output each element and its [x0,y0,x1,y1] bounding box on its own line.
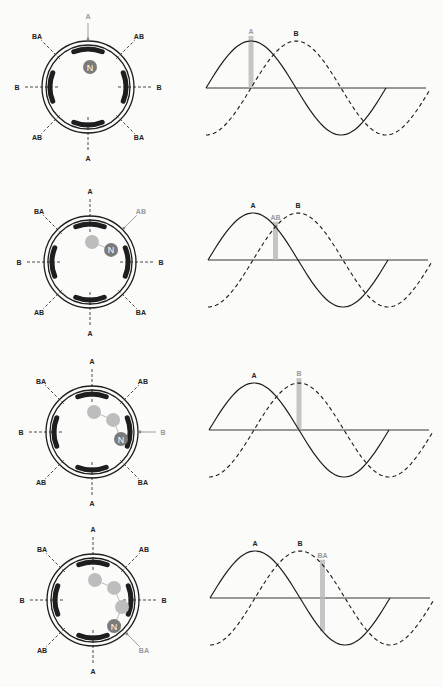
stepper-motor-diagram: AABBBAAABBBANBAAABBBAAABBBANABABAABBBAAA… [0,0,443,687]
stator-label-top: A [90,526,95,533]
rotor-north-label: N [111,622,118,632]
stator-label-bottom-right: BA [136,309,146,316]
stator-label-bottom: A [90,668,95,675]
position-marker-label: A [248,28,253,35]
waveform-plot: ABBA [210,540,434,645]
waveform-plot: ABAB [208,202,432,307]
panel-4: AABBBAAABBBANABBA [19,526,434,675]
active-phase-arrow [124,215,137,228]
position-marker-label: B [296,370,301,377]
panel-2: AABBBAAABBBANABAB [16,188,432,337]
stator-label-left: B [19,597,24,604]
active-phase-arrow [127,634,140,647]
phase-b-label: B [297,540,302,547]
stator-label-bottom-left: AB [36,479,46,486]
radial-guide-line [45,460,63,478]
stator-label-top-left: BA [36,378,46,385]
radial-guide-line [120,385,138,403]
stator-label-top-right: AB [139,546,149,553]
stator-label-top-left: BA [37,546,47,553]
motor-cross-section: AABBBAAABBBAN [19,526,166,675]
stator-label-bottom-right: BA [139,647,149,654]
stator-label-top: A [87,188,92,195]
stator-label-right: B [156,84,161,91]
stator-label-bottom-left: AB [34,309,44,316]
rotor-ghost-position [107,581,121,595]
motor-cross-section: AABBBAAABBBAN [14,13,161,162]
phase-b-label: B [295,202,300,209]
rotor-ghost-position [87,405,101,419]
radial-guide-line [45,385,63,403]
panel-3: AABBBAAABBBANAB [18,358,433,507]
arrow-head-icon [139,431,142,434]
rotor-ghost-position [115,600,129,614]
motor-cross-section: AABBBAAABBBAN [18,358,165,507]
stator-label-top-right: AB [134,33,144,40]
radial-guide-line [116,115,134,133]
rotor-ghost-position [88,573,102,587]
stator-label-left: B [18,429,23,436]
radial-guide-line [41,115,59,133]
radial-guide-line [120,460,138,478]
phase-a-label: A [251,372,256,379]
pole-piece [74,49,102,52]
diagram-canvas: AABBBAAABBBANBAAABBBAAABBBANABABAABBBAAA… [0,0,443,687]
stator-label-left: B [14,84,19,91]
rotor-ghost-position [106,413,120,427]
stator-label-top: A [89,358,94,365]
stator-label-left: B [16,259,21,266]
stator-label-bottom-right: BA [134,134,144,141]
waveform-plot: BA [206,28,430,135]
pole-piece [127,418,130,446]
panel-1: AABBBAAABBBANBA [14,13,430,162]
stator-label-right: B [160,429,165,436]
stator-label-right: B [161,597,166,604]
stator-label-bottom: A [85,155,90,162]
stator-label-top-right: AB [138,378,148,385]
position-marker-bar [320,560,325,631]
stator-label-bottom: A [89,500,94,507]
stator-label-right: B [158,259,163,266]
radial-guide-line [121,553,139,571]
phase-a-label: A [252,540,257,547]
stator-label-bottom-left: AB [32,134,42,141]
stator-label-top-right: AB [136,208,146,215]
stator-label-top-left: BA [32,33,42,40]
arrow-head-icon [87,38,90,41]
arrow-head-icon [126,633,129,636]
radial-guide-line [43,215,61,233]
rotor-north-label: N [118,435,125,445]
radial-guide-line [43,290,61,308]
waveform-plot: AB [209,370,433,477]
phase-a-label: A [250,202,255,209]
stator-label-top-left: BA [34,208,44,215]
stator-label-bottom-left: AB [37,647,47,654]
stator-label-top: A [85,13,90,20]
rotor-north-label: N [108,245,115,255]
radial-guide-line [46,628,64,646]
rotor-north-label: N [87,63,94,73]
motor-cross-section: AABBBAAABBBAN [16,188,163,337]
position-marker-bar [249,36,254,88]
rotor-ghost-position [85,235,99,249]
radial-guide-line [46,553,64,571]
position-marker-label: BA [317,552,327,559]
position-marker-label: AB [270,214,280,221]
stator-label-bottom: A [87,330,92,337]
position-marker-bar [297,378,302,430]
arrow-head-icon [123,227,126,230]
radial-guide-line [41,40,59,58]
stator-label-bottom-right: BA [138,479,148,486]
radial-guide-line [116,40,134,58]
phase-b-label: B [293,30,298,37]
radial-guide-line [118,290,136,308]
